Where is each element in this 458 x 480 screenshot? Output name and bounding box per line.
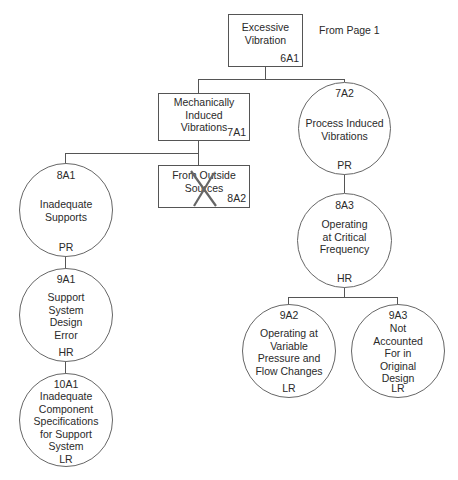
- connector-9A1-10A1: [65, 362, 66, 373]
- node-10A1: 10A1 Inadequate Component Specifications…: [19, 373, 113, 467]
- node-8A1-text: Inadequate Supports: [20, 198, 112, 223]
- node-10A1-text: Inadequate Component Specifications for …: [20, 390, 112, 453]
- node-6A1: Excessive Vibration 6A1: [228, 14, 303, 67]
- node-8A3-rating: HR: [298, 272, 391, 285]
- node-9A3: 9A3 Not Accounted For in Original Design…: [351, 304, 445, 398]
- node-7A1: Mechanically Induced Vibrations 7A1: [158, 93, 250, 141]
- node-9A3-rating: LR: [352, 382, 444, 395]
- connector-to-8A1: [65, 153, 66, 163]
- node-9A2-rating: LR: [243, 382, 335, 395]
- node-8A3-code: 8A3: [298, 199, 391, 212]
- node-10A1-rating: LR: [20, 453, 112, 466]
- node-7A2-code: 7A2: [299, 87, 390, 100]
- off-page-reference: From Page 1: [319, 24, 380, 36]
- connector-level9-horizontal: [288, 297, 398, 298]
- node-7A1-code: 7A1: [227, 126, 246, 138]
- node-8A2: From Outside Sources 8A2: [158, 165, 250, 208]
- node-9A1-code: 9A1: [20, 273, 112, 286]
- cross-out-icon: [189, 169, 219, 207]
- node-9A2-text: Operating at Variable Pressure and Flow …: [243, 327, 335, 377]
- connector-to-7A1: [198, 79, 199, 93]
- node-9A3-text: Not Accounted For in Original Design: [352, 322, 444, 385]
- connector-to-9A3: [397, 297, 398, 304]
- connector-level8-horizontal: [65, 153, 199, 154]
- node-9A1-rating: HR: [20, 346, 112, 359]
- node-7A2-text: Process Induced Vibrations: [299, 117, 390, 142]
- node-7A2-rating: PR: [299, 159, 390, 172]
- node-8A3: 8A3 Operating at Critical Frequency HR: [297, 193, 392, 288]
- connector-6A1-down: [265, 66, 266, 79]
- node-6A1-code: 6A1: [280, 52, 299, 64]
- connector-to-9A2: [288, 297, 289, 304]
- node-9A2: 9A2 Operating at Variable Pressure and F…: [242, 304, 336, 398]
- connector-level7-horizontal: [198, 79, 345, 80]
- fault-tree-diagram: Excessive Vibration 6A1 From Page 1 Mech…: [0, 0, 458, 480]
- connector-8A3-down: [344, 287, 345, 297]
- node-9A1-text: Support System Design Error: [20, 291, 112, 341]
- node-8A2-code: 8A2: [227, 192, 246, 204]
- node-10A1-code: 10A1: [20, 378, 112, 391]
- node-7A2: 7A2 Process Induced Vibrations PR: [298, 82, 391, 175]
- node-8A1: 8A1 Inadequate Supports PR: [19, 163, 113, 257]
- node-9A1: 9A1 Support System Design Error HR: [19, 268, 113, 362]
- node-6A1-text: Excessive Vibration: [229, 21, 302, 46]
- connector-7A2-8A3: [344, 174, 345, 193]
- node-9A2-code: 9A2: [243, 309, 335, 322]
- node-8A1-rating: PR: [20, 241, 112, 254]
- connector-8A1-9A1: [65, 257, 66, 268]
- node-8A1-code: 8A1: [20, 169, 112, 182]
- node-8A3-text: Operating at Critical Frequency: [298, 218, 391, 256]
- node-9A3-code: 9A3: [352, 309, 444, 322]
